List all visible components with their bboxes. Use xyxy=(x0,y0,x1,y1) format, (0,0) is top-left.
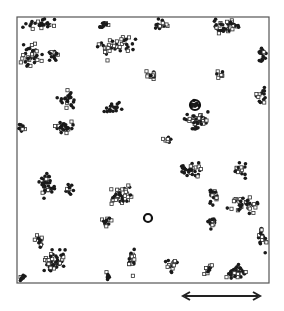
filled-dot-point xyxy=(191,127,195,131)
open-square-point xyxy=(173,260,176,263)
filled-dot-point xyxy=(214,18,218,22)
filled-dot-point xyxy=(47,23,51,27)
open-square-point xyxy=(52,24,55,27)
filled-dot-point xyxy=(209,227,213,231)
open-square-point xyxy=(36,20,39,23)
filled-dot-point xyxy=(222,27,226,31)
open-square-point xyxy=(231,28,234,31)
filled-dot-point xyxy=(209,189,213,193)
filled-dot-point xyxy=(55,96,59,100)
filled-dot-point xyxy=(70,127,74,131)
open-square-point xyxy=(114,198,117,201)
filled-dot-point xyxy=(132,248,136,252)
filled-dot-point xyxy=(26,57,30,61)
open-square-point xyxy=(65,106,68,109)
filled-dot-point xyxy=(200,122,204,126)
open-square-point xyxy=(196,175,199,178)
filled-dot-point xyxy=(111,110,115,114)
open-square-point xyxy=(123,194,126,197)
open-square-point xyxy=(30,53,33,56)
open-square-point xyxy=(166,265,169,268)
filled-dot-point xyxy=(114,193,118,197)
filled-dot-point xyxy=(33,61,37,65)
open-square-point xyxy=(210,264,213,267)
filled-dot-point xyxy=(62,264,66,268)
open-square-point xyxy=(146,75,149,78)
filled-dot-point xyxy=(243,173,247,177)
open-square-point xyxy=(172,264,175,267)
filled-dot-point xyxy=(208,268,212,272)
filled-dot-point xyxy=(43,17,47,21)
filled-dot-point xyxy=(117,101,121,105)
open-square-point xyxy=(166,138,169,141)
filled-dot-point xyxy=(120,107,124,111)
filled-dot-point xyxy=(104,220,108,224)
open-square-point xyxy=(116,188,119,191)
filled-dot-point xyxy=(237,208,241,212)
filled-dot-point xyxy=(187,170,191,174)
filled-dot-point xyxy=(154,23,158,27)
open-square-point xyxy=(31,27,34,30)
filled-dot-point xyxy=(240,172,244,176)
open-square-point xyxy=(226,20,229,23)
filled-dot-point xyxy=(209,200,213,204)
filled-dot-point xyxy=(170,271,174,275)
open-square-point xyxy=(22,54,25,57)
filled-dot-point xyxy=(108,217,112,221)
open-square-point xyxy=(263,101,266,104)
filled-dot-point xyxy=(191,173,195,177)
filled-dot-point xyxy=(194,127,198,131)
filled-dot-point xyxy=(255,201,259,205)
filled-dot-point xyxy=(259,232,263,236)
open-square-point xyxy=(124,190,127,193)
filled-dot-point xyxy=(26,63,30,67)
filled-dot-point xyxy=(28,47,32,51)
filled-dot-point xyxy=(238,204,242,208)
filled-dot-point xyxy=(125,199,129,203)
open-square-point xyxy=(225,276,228,279)
filled-dot-point xyxy=(98,25,102,29)
filled-dot-point xyxy=(38,24,42,28)
filled-dot-point xyxy=(264,237,268,241)
filled-dot-point xyxy=(214,23,218,27)
open-square-point xyxy=(33,238,36,241)
open-square-point xyxy=(252,203,255,206)
open-square-point xyxy=(265,241,268,244)
filled-dot-point xyxy=(215,72,219,76)
filled-dot-point xyxy=(48,181,52,185)
filled-dot-point xyxy=(71,123,75,127)
filled-dot-point xyxy=(237,263,241,267)
open-square-point xyxy=(30,43,33,46)
filled-dot-point xyxy=(180,170,184,174)
filled-dot-point xyxy=(66,127,70,131)
open-square-point xyxy=(105,225,108,228)
filled-dot-point xyxy=(48,58,52,62)
filled-dot-point xyxy=(129,193,133,197)
point-pattern-chart xyxy=(0,0,284,311)
filled-dot-point xyxy=(167,259,171,263)
open-square-point xyxy=(110,202,113,205)
filled-dot-point xyxy=(132,261,136,265)
filled-dot-point xyxy=(42,182,46,186)
open-square-point xyxy=(47,258,50,261)
filled-dot-point xyxy=(72,189,76,193)
open-square-point xyxy=(248,196,251,199)
open-square-point xyxy=(254,206,257,209)
filled-dot-point xyxy=(191,114,195,118)
filled-dot-point xyxy=(192,121,196,125)
filled-dot-point xyxy=(24,22,28,26)
filled-dot-point xyxy=(68,93,72,97)
filled-dot-point xyxy=(43,189,47,193)
filled-dot-point xyxy=(110,102,114,106)
filled-dot-point xyxy=(63,248,67,252)
open-square-point xyxy=(248,207,251,210)
open-square-point xyxy=(35,50,38,53)
filled-dot-point xyxy=(59,253,63,257)
filled-dot-point xyxy=(39,238,43,242)
filled-dot-point xyxy=(244,176,248,180)
open-square-point xyxy=(145,70,148,73)
open-square-point xyxy=(131,274,134,277)
open-square-point xyxy=(189,165,192,168)
open-square-point xyxy=(113,44,116,47)
open-square-point xyxy=(108,49,111,52)
